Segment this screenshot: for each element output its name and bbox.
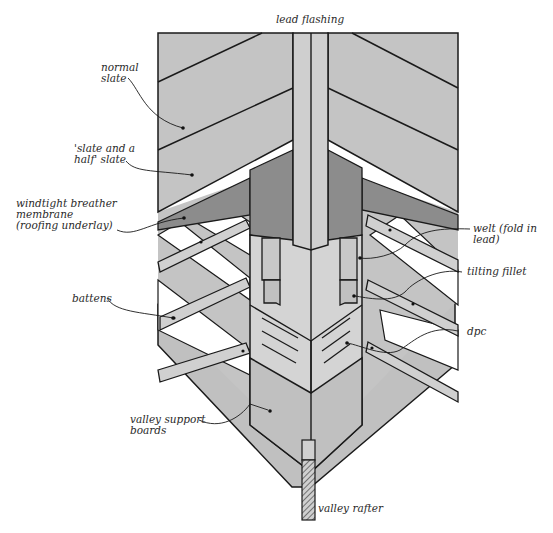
- label-welt: welt (fold in lead): [473, 223, 537, 245]
- label-valley-support-boards: valley support boards: [130, 414, 206, 436]
- label-battens: battens: [72, 293, 112, 304]
- label-normal-slate: normal slate: [101, 62, 139, 84]
- label-slate-and-half: 'slate and a half' slate: [74, 143, 135, 165]
- label-valley-rafter: valley rafter: [318, 503, 383, 514]
- label-dpc: dpc: [467, 326, 486, 337]
- label-lead-flashing: lead flashing: [276, 14, 344, 25]
- valley-lead-lining: [250, 235, 362, 472]
- label-breather-membrane: windtight breather membrane (roofing und…: [16, 198, 117, 231]
- valley-rafter: [302, 440, 315, 520]
- label-tilting-fillet: tilting fillet: [467, 266, 527, 277]
